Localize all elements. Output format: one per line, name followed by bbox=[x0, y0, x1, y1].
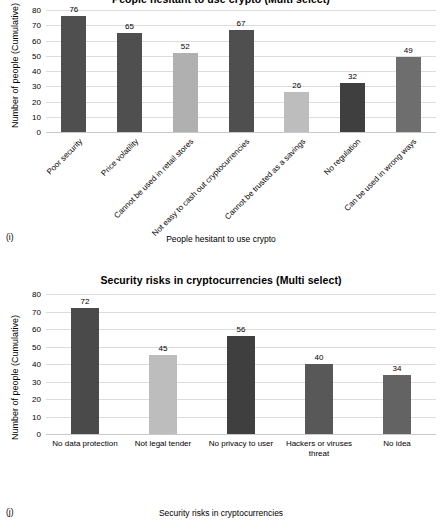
bar-value-label: 67 bbox=[237, 19, 246, 28]
x-axis-category-label: Not legal tender bbox=[125, 439, 201, 449]
bar: 49 bbox=[396, 57, 421, 132]
bar-value-label: 49 bbox=[404, 46, 413, 55]
bar: 40 bbox=[305, 364, 333, 434]
figure-panel-j: Security risks in cryptocurrencies (Mult… bbox=[0, 262, 442, 529]
y-axis-title-j: Number of people (Cumulative) bbox=[10, 315, 20, 440]
bar-value-label: 40 bbox=[315, 353, 324, 362]
y-axis-tick-label: 80 bbox=[32, 6, 41, 15]
y-axis-tick-label: 10 bbox=[32, 112, 41, 121]
bar: 76 bbox=[61, 16, 86, 132]
panel-letter-i: (i) bbox=[6, 232, 14, 242]
bar: 34 bbox=[383, 375, 411, 435]
x-axis-category-label: No privacy to user bbox=[203, 439, 279, 449]
figure-panel-i: People hesitant to use crypto (Multi sel… bbox=[0, 0, 442, 262]
x-axis-category-label: No idea bbox=[359, 439, 435, 449]
x-axis-category-label: No data protection bbox=[47, 439, 123, 449]
y-axis-tick-label: 80 bbox=[32, 290, 41, 299]
gridline bbox=[46, 132, 436, 133]
bar: 32 bbox=[340, 83, 365, 132]
bar-value-label: 52 bbox=[181, 42, 190, 51]
y-axis-tick-label: 50 bbox=[32, 51, 41, 60]
bar-value-label: 34 bbox=[393, 364, 402, 373]
y-axis-tick-label: 60 bbox=[32, 325, 41, 334]
y-axis-tick-label: 40 bbox=[32, 360, 41, 369]
gridline bbox=[46, 312, 436, 313]
chart-title-i: People hesitant to use crypto (Multi sel… bbox=[0, 0, 442, 5]
y-axis-tick-label: 0 bbox=[37, 128, 41, 137]
x-axis-category-label: Poor security bbox=[45, 137, 84, 176]
y-axis-tick-label: 70 bbox=[32, 21, 41, 30]
bar-value-label: 76 bbox=[69, 5, 78, 14]
x-axis-category-label: Price volatility bbox=[99, 137, 140, 178]
bar-value-label: 26 bbox=[292, 81, 301, 90]
y-axis-tick-label: 10 bbox=[32, 412, 41, 421]
y-axis-tick-label: 40 bbox=[32, 67, 41, 76]
y-axis-tick-label: 30 bbox=[32, 377, 41, 386]
gridline bbox=[46, 294, 436, 295]
gridline bbox=[46, 10, 436, 11]
gridline bbox=[46, 434, 436, 435]
bar-value-label: 45 bbox=[159, 344, 168, 353]
plot-area-j: 0102030405060708072No data protection45N… bbox=[46, 294, 436, 434]
y-axis-tick-label: 0 bbox=[37, 430, 41, 439]
x-axis-title-i: People hesitant to use crypto bbox=[0, 234, 442, 244]
bar-value-label: 65 bbox=[125, 22, 134, 31]
bar-value-label: 72 bbox=[81, 297, 90, 306]
x-axis-category-label: No regulation bbox=[323, 137, 363, 177]
bar: 65 bbox=[117, 33, 142, 132]
bar: 52 bbox=[173, 53, 198, 132]
bar: 72 bbox=[71, 308, 99, 434]
x-axis-category-label: Hackers or viruses threat bbox=[281, 439, 357, 459]
bar-value-label: 56 bbox=[237, 325, 246, 334]
chart-title-j: Security risks in cryptocurrencies (Mult… bbox=[0, 274, 442, 286]
y-axis-tick-label: 20 bbox=[32, 97, 41, 106]
y-axis-tick-label: 20 bbox=[32, 395, 41, 404]
x-axis-category-label: Not easy to cash out cryptocurrencies bbox=[150, 137, 251, 238]
plot-area-i: 0102030405060708076Poor security65Price … bbox=[46, 10, 436, 132]
x-axis-title-j: Security risks in cryptocurrencies bbox=[0, 508, 442, 518]
bar-value-label: 32 bbox=[348, 72, 357, 81]
y-axis-tick-label: 60 bbox=[32, 36, 41, 45]
bar: 67 bbox=[229, 30, 254, 132]
bar: 26 bbox=[284, 92, 309, 132]
y-axis-tick-label: 30 bbox=[32, 82, 41, 91]
y-axis-tick-label: 70 bbox=[32, 307, 41, 316]
panel-letter-j: (j) bbox=[6, 507, 14, 517]
y-axis-title-i: Number of people (Cumulative) bbox=[10, 3, 20, 128]
bar: 45 bbox=[149, 355, 177, 434]
bar: 56 bbox=[227, 336, 255, 434]
y-axis-tick-label: 50 bbox=[32, 342, 41, 351]
